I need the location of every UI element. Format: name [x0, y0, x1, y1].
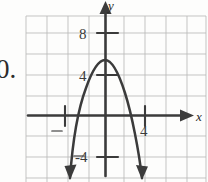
figure-container: 0. — [0, 0, 208, 182]
x-axis-label: x — [195, 109, 202, 124]
y-axis-label: y — [106, 0, 114, 13]
parabola-graph: 8 4 -4 4 x y — [0, 0, 208, 182]
y-tick-label-neg4: -4 — [75, 149, 88, 165]
y-tick-label-8: 8 — [79, 26, 87, 42]
y-tick-label-4: 4 — [79, 68, 87, 84]
x-tick-label-4: 4 — [140, 123, 148, 139]
